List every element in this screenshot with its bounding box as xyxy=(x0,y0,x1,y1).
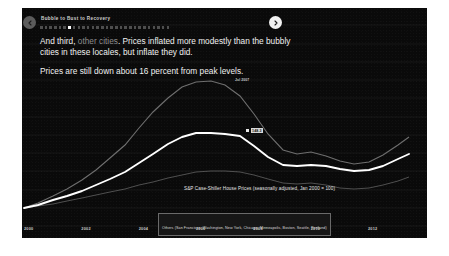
slide-dot[interactable] xyxy=(40,26,43,29)
slide-dot[interactable] xyxy=(167,26,170,29)
data-point-label[interactable]: 148.3 xyxy=(246,128,263,133)
para1-part-a: And third, xyxy=(40,36,78,46)
slide-dot[interactable] xyxy=(63,26,66,29)
slide-copy: And third, other cities. Prices inflated… xyxy=(40,36,298,77)
slide-dot[interactable] xyxy=(96,26,99,29)
slide-dot[interactable] xyxy=(87,26,90,29)
chart-caption: S&P Case-Shiller House Prices (seasonall… xyxy=(184,186,335,191)
deck-title: Bubble to Bust to Recovery xyxy=(41,16,110,21)
slide-dot[interactable] xyxy=(124,26,127,29)
slide-dot[interactable] xyxy=(138,26,141,29)
screenshot-root: Bubble to Bust to Recovery And third, ot… xyxy=(0,0,449,256)
paragraph-one: And third, other cities. Prices inflated… xyxy=(40,36,298,57)
slide-dot[interactable] xyxy=(153,26,156,29)
x-axis: 2000200220042006200820102012 xyxy=(22,226,427,236)
slide-dot[interactable] xyxy=(106,26,109,29)
slide-dot[interactable] xyxy=(143,26,146,29)
slide-dot[interactable] xyxy=(110,26,113,29)
slide-dot[interactable] xyxy=(49,26,52,29)
x-axis-tick: 2004 xyxy=(139,226,148,231)
x-axis-tick: 2006 xyxy=(196,226,205,231)
paragraph-two: Prices are still down about 16 percent f… xyxy=(40,66,298,77)
slide-dot[interactable] xyxy=(134,26,137,29)
x-axis-tick: 2000 xyxy=(24,226,33,231)
data-point-marker-icon xyxy=(246,129,249,132)
data-point-value: 148.3 xyxy=(251,128,264,133)
x-axis-tick: 2010 xyxy=(311,226,320,231)
chevron-right-icon xyxy=(273,20,279,26)
slide-dot[interactable] xyxy=(68,26,71,29)
para1-emphasis: other cities xyxy=(78,36,118,46)
peak-annotation-label: Jul 2007 xyxy=(235,78,249,82)
slide-dot[interactable] xyxy=(162,26,165,29)
presentation-slide: Bubble to Bust to Recovery And third, ot… xyxy=(22,8,427,238)
slide-dot[interactable] xyxy=(59,26,62,29)
y-axis: 30028026024022020018016014012010080 xyxy=(424,8,427,238)
prev-slide-button[interactable] xyxy=(23,16,36,29)
slide-dot[interactable] xyxy=(129,26,132,29)
chevron-left-icon xyxy=(27,20,33,26)
slide-dot[interactable] xyxy=(157,26,160,29)
slide-dot[interactable] xyxy=(115,26,118,29)
x-axis-tick: 2008 xyxy=(253,226,262,231)
slide-dot[interactable] xyxy=(54,26,57,29)
slide-dot[interactable] xyxy=(45,26,48,29)
x-axis-tick: 2002 xyxy=(81,226,90,231)
slide-dot[interactable] xyxy=(78,26,81,29)
slide-dot[interactable] xyxy=(92,26,95,29)
x-axis-tick: 2012 xyxy=(368,226,377,231)
slide-progress-dots[interactable] xyxy=(40,26,169,29)
slide-dot[interactable] xyxy=(120,26,123,29)
next-slide-button[interactable] xyxy=(269,16,282,29)
slide-dot[interactable] xyxy=(101,26,104,29)
slide-dot[interactable] xyxy=(148,26,151,29)
slide-dot[interactable] xyxy=(73,26,76,29)
slide-dot[interactable] xyxy=(82,26,85,29)
